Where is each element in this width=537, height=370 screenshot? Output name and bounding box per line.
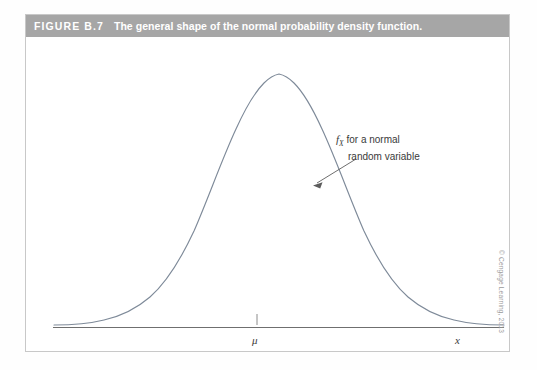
figure-header-bar: FIGURE B.7 The general shape of the norm… [26,15,509,37]
curve-annotation-text: fX for a normal random variable [336,133,420,163]
annotation-line-2: random variable [336,150,420,163]
mu-axis-label: μ [252,334,258,346]
page-background: FIGURE B.7 The general shape of the norm… [0,0,537,370]
plot-area: fX for a normal random variable μ x [26,37,509,351]
figure-box: FIGURE B.7 The general shape of the norm… [25,14,510,352]
annotation-line-1: fX for a normal [336,134,400,145]
normal-density-curve-svg [26,37,509,351]
annotation-line-1-rest: for a normal [344,134,400,145]
copyright-credit: © Cengage Learning, 2013 [498,250,505,333]
fx-symbol: fX [336,133,344,145]
x-axis-label: x [455,334,460,346]
normal-curve-path [54,74,504,325]
annotation-arrow [313,159,356,188]
figure-caption: The general shape of the normal probabil… [104,20,422,32]
figure-number-label: FIGURE B.7 [26,20,104,32]
